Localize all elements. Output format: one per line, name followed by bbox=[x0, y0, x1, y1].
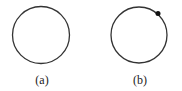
diagram-canvas bbox=[0, 0, 182, 91]
figure-label-b: (b) bbox=[133, 73, 147, 88]
circle-a bbox=[13, 7, 70, 64]
point-marker bbox=[156, 11, 161, 16]
figure-label-a: (a) bbox=[35, 73, 48, 88]
